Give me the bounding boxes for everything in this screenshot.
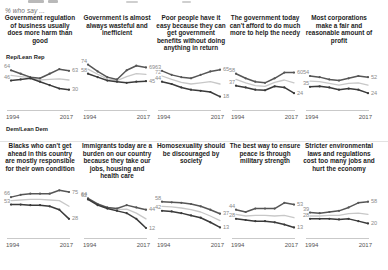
data-point — [87, 73, 89, 75]
start-value-label: 46 — [4, 74, 10, 80]
chart-title: Poor people have it easy because they ca… — [155, 14, 227, 52]
data-point — [29, 193, 31, 195]
line-plot: 58374213 — [155, 182, 227, 240]
data-point — [283, 71, 285, 73]
chart-title: Government regulation of business usuall… — [4, 14, 76, 52]
x-axis-line — [158, 110, 221, 111]
chart-row-2: Blacks who can't get ahead in this count… — [0, 142, 388, 270]
chart-cell-poor-people-have-it-easy: Poor people have it easy because they ca… — [155, 14, 227, 142]
data-point — [319, 218, 321, 220]
data-point — [126, 212, 128, 214]
data-point — [367, 92, 369, 94]
data-point — [145, 209, 147, 211]
data-point — [106, 207, 108, 209]
data-point — [245, 211, 247, 213]
data-point — [135, 206, 137, 208]
data-point — [283, 223, 285, 225]
chart-row-1: Government regulation of business usuall… — [0, 14, 388, 142]
axis-tick-start: 1994 — [157, 242, 170, 248]
data-point — [116, 207, 118, 209]
data-point — [309, 218, 311, 220]
line-plot: 39582820 — [303, 182, 375, 240]
data-point — [254, 220, 256, 222]
axis-tick-start: 1994 — [305, 114, 318, 120]
data-point — [39, 193, 41, 195]
data-point — [10, 69, 12, 71]
data-point — [20, 73, 22, 75]
data-point — [135, 218, 137, 220]
data-point — [283, 86, 285, 88]
data-point — [171, 201, 173, 203]
data-point — [171, 74, 173, 76]
data-point — [274, 207, 276, 209]
data-point — [328, 78, 330, 80]
data-point — [309, 75, 311, 77]
axis-tick-end: 2017 — [60, 114, 73, 120]
crop-fragment — [182, 1, 191, 3]
chart-cell-government-cant-afford-needy: The government today can't afford to do … — [229, 14, 301, 142]
data-point — [357, 75, 359, 77]
data-point — [20, 78, 22, 80]
data-point — [58, 87, 60, 89]
x-axis-line — [84, 238, 147, 239]
x-axis-line — [7, 110, 70, 111]
data-point — [254, 89, 256, 91]
data-point — [106, 76, 108, 78]
data-point — [10, 203, 12, 205]
line-plot: 54523524 — [303, 54, 375, 112]
axis-tick-end: 2017 — [137, 242, 150, 248]
data-point — [309, 86, 311, 88]
data-point — [145, 80, 147, 82]
data-point — [190, 214, 192, 216]
data-point — [116, 210, 118, 212]
data-point — [357, 220, 359, 222]
axis-tick-start: 1994 — [305, 242, 318, 248]
data-point — [68, 70, 70, 72]
data-point — [293, 92, 295, 94]
data-point — [68, 191, 70, 193]
axis-tick-start: 1994 — [6, 114, 19, 120]
series-line-dem-lean-dem — [162, 211, 220, 228]
data-point — [235, 218, 237, 220]
data-point — [219, 95, 221, 97]
x-axis-line — [84, 110, 147, 111]
chart-cell-corporations-fair-profit: Most corporations make a fair and reason… — [303, 14, 375, 142]
axis-tick-start: 1994 — [157, 114, 170, 120]
data-point — [68, 89, 70, 91]
crop-fragment — [28, 0, 44, 3]
data-point — [219, 226, 221, 228]
data-point — [87, 63, 89, 65]
axis-tick-start: 1994 — [231, 114, 244, 120]
x-axis-line — [306, 238, 369, 239]
data-point — [145, 66, 147, 68]
data-point — [348, 77, 350, 79]
end-value-label: 20 — [371, 220, 377, 226]
axis-tick-start: 1994 — [6, 242, 19, 248]
data-point — [39, 204, 41, 206]
data-point — [116, 78, 118, 80]
data-point — [264, 82, 266, 84]
data-point — [171, 210, 173, 212]
row-divider — [0, 141, 388, 142]
start-value-label: 42 — [155, 204, 161, 210]
line-plot: 74695845 — [81, 54, 153, 112]
data-point — [180, 212, 182, 214]
start-value-label: 35 — [303, 80, 309, 86]
data-point — [49, 84, 51, 86]
data-point — [367, 76, 369, 78]
data-point — [235, 209, 237, 211]
axis-tick-start: 1994 — [83, 114, 96, 120]
data-point — [135, 65, 137, 67]
start-value-label: 58 — [229, 67, 235, 73]
data-point — [200, 74, 202, 76]
line-plot: 58603724 — [229, 54, 301, 112]
chart-cell-peace-through-military-strength: The best way to ensure peace is through … — [229, 142, 301, 270]
data-point — [200, 90, 202, 92]
legend-rep: Rep/Lean Rep — [6, 54, 45, 60]
chart-cell-environmental-laws-cost-jobs: Stricter environmental laws and regulati… — [303, 142, 375, 270]
data-point — [209, 91, 211, 93]
line-plot: 64446212 — [81, 182, 153, 240]
data-point — [49, 193, 51, 195]
data-point — [328, 218, 330, 220]
axis-tick-start: 1994 — [231, 242, 244, 248]
